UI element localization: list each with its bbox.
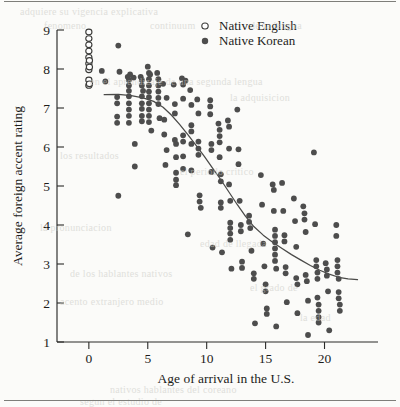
data-point-korean bbox=[126, 88, 132, 94]
data-point-korean bbox=[147, 72, 153, 78]
data-point-korean bbox=[249, 248, 255, 254]
data-point-korean bbox=[251, 270, 257, 276]
y-axis-tick-label: 4 bbox=[43, 218, 50, 233]
data-point-korean bbox=[126, 82, 132, 88]
data-point-korean bbox=[139, 113, 145, 119]
data-point-english bbox=[86, 58, 92, 64]
data-point-korean bbox=[246, 213, 252, 219]
data-point-korean bbox=[188, 102, 194, 108]
data-point-korean bbox=[139, 106, 145, 112]
data-point-korean bbox=[236, 161, 242, 167]
data-point-korean bbox=[336, 289, 342, 295]
data-point-korean bbox=[238, 222, 244, 228]
data-point-korean bbox=[197, 199, 203, 205]
data-point-korean bbox=[251, 276, 257, 282]
data-point-korean bbox=[161, 117, 167, 123]
data-point-korean bbox=[264, 311, 270, 317]
data-point-korean bbox=[161, 132, 167, 138]
data-point-korean bbox=[207, 97, 213, 103]
data-point-korean bbox=[227, 225, 233, 231]
legend-marker-open-circle bbox=[202, 23, 208, 29]
data-point-korean bbox=[194, 97, 200, 103]
y-axis-tick-label: 7 bbox=[43, 101, 50, 116]
data-point-korean bbox=[114, 120, 120, 126]
x-axis-title: Age of arrival in the U.S. bbox=[158, 371, 295, 386]
data-point-korean bbox=[273, 324, 279, 330]
data-point-korean bbox=[335, 270, 341, 276]
data-point-korean bbox=[259, 202, 265, 208]
data-point-korean bbox=[226, 146, 232, 152]
data-point-english bbox=[86, 81, 92, 87]
data-point-korean bbox=[311, 150, 317, 156]
data-point-korean bbox=[196, 152, 202, 158]
chart-legend: Native EnglishNative Korean bbox=[202, 18, 297, 48]
x-axis-tick-label: 20 bbox=[318, 351, 332, 366]
data-point-korean bbox=[304, 278, 310, 284]
axes bbox=[57, 30, 378, 349]
data-point-korean bbox=[155, 89, 161, 95]
data-point-korean bbox=[188, 168, 194, 174]
data-point-korean bbox=[272, 227, 278, 233]
data-point-korean bbox=[173, 141, 179, 147]
data-point-korean bbox=[335, 263, 341, 269]
data-point-korean bbox=[131, 75, 137, 81]
data-point-korean bbox=[173, 154, 179, 160]
data-point-korean bbox=[316, 314, 322, 320]
data-point-korean bbox=[272, 252, 278, 258]
data-point-korean bbox=[272, 239, 278, 245]
data-point-korean bbox=[198, 205, 204, 211]
y-axis-tick-label: 2 bbox=[43, 296, 50, 311]
data-point-korean bbox=[280, 208, 286, 214]
data-point-korean bbox=[313, 257, 319, 263]
data-point-english bbox=[86, 42, 92, 48]
data-point-korean bbox=[227, 220, 233, 226]
data-point-korean bbox=[315, 270, 321, 276]
data-point-korean bbox=[146, 119, 152, 125]
data-point-korean bbox=[270, 182, 276, 188]
y-axis-tick-label: 6 bbox=[43, 140, 50, 155]
legend-label: Native English bbox=[219, 18, 297, 33]
data-point-korean bbox=[163, 162, 169, 168]
data-point-korean bbox=[237, 198, 243, 204]
data-point-korean bbox=[140, 88, 146, 94]
y-axis-tick-label: 1 bbox=[43, 335, 50, 350]
data-point-english bbox=[86, 29, 92, 35]
data-point-korean bbox=[316, 308, 322, 314]
data-point-korean bbox=[148, 128, 154, 134]
data-point-korean bbox=[146, 89, 152, 95]
data-point-korean bbox=[217, 139, 223, 145]
data-point-korean bbox=[305, 332, 311, 338]
data-point-korean bbox=[247, 225, 253, 231]
data-point-korean bbox=[207, 111, 213, 117]
data-point-korean bbox=[335, 257, 341, 263]
data-point-korean bbox=[209, 141, 215, 147]
data-point-korean bbox=[227, 198, 233, 204]
data-point-korean bbox=[155, 95, 161, 101]
data-point-korean bbox=[279, 180, 285, 186]
data-point-korean bbox=[180, 166, 186, 172]
data-point-korean bbox=[173, 170, 179, 176]
data-point-korean bbox=[325, 288, 331, 294]
data-points bbox=[86, 29, 343, 338]
data-point-korean bbox=[218, 171, 224, 177]
data-point-korean bbox=[139, 93, 145, 99]
data-point-korean bbox=[196, 146, 202, 152]
data-point-korean bbox=[323, 260, 329, 266]
data-point-korean bbox=[260, 241, 266, 247]
data-point-korean bbox=[303, 272, 309, 278]
data-point-korean bbox=[209, 147, 215, 153]
data-point-korean bbox=[132, 164, 138, 170]
x-axis-tick-label: 15 bbox=[259, 351, 273, 366]
data-point-korean bbox=[252, 320, 258, 326]
y-axis-title: Average foreign accent rating bbox=[10, 106, 25, 266]
data-point-korean bbox=[146, 94, 152, 100]
data-point-korean bbox=[219, 249, 225, 255]
data-point-korean bbox=[312, 221, 318, 227]
data-point-korean bbox=[336, 276, 342, 282]
data-point-korean bbox=[126, 107, 132, 113]
data-point-korean bbox=[139, 82, 145, 88]
data-point-korean bbox=[300, 203, 306, 209]
data-point-korean bbox=[273, 266, 279, 272]
data-point-korean bbox=[210, 245, 216, 251]
data-point-korean bbox=[324, 273, 330, 279]
